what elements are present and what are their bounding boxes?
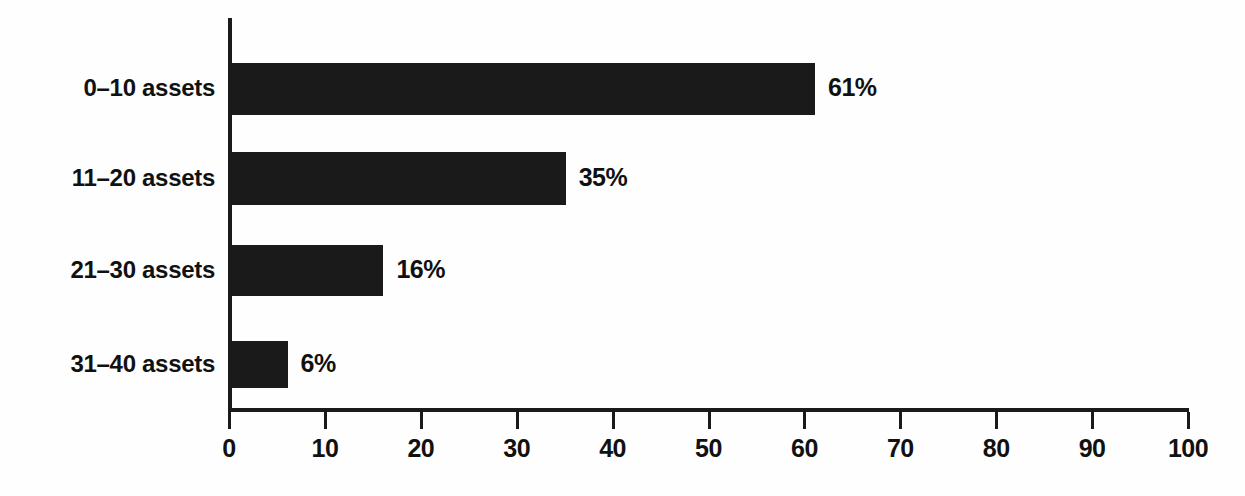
x-tick-mark [899,412,902,429]
x-tick-mark [1091,412,1094,429]
bar [230,63,815,115]
x-tick-mark [420,412,423,429]
x-tick-label: 70 [887,434,914,463]
bar-row: 0–10 assets61% [0,63,1245,115]
category-label: 31–40 assets [70,350,215,378]
x-tick-label: 80 [983,434,1010,463]
x-tick-mark [995,412,998,429]
x-tick-label: 0 [222,434,235,463]
bar-row: 11–20 assets35% [0,152,1245,205]
bar-value-label: 6% [301,349,336,378]
x-tick-label: 40 [599,434,626,463]
bar-row: 21–30 assets16% [0,245,1245,296]
category-label: 11–20 assets [72,164,215,192]
x-tick-mark [228,412,231,429]
bar-row: 31–40 assets6% [0,341,1245,388]
x-tick-mark [803,412,806,429]
x-tick-label: 10 [311,434,338,463]
bar [230,152,566,205]
x-tick-label: 90 [1079,434,1106,463]
category-label: 21–30 assets [70,256,215,284]
bar-value-label: 16% [396,255,445,284]
x-tick-label: 50 [695,434,722,463]
x-tick-mark [1187,412,1190,429]
x-tick-mark [612,412,615,429]
x-tick-label: 20 [407,434,434,463]
x-tick-label: 30 [503,434,530,463]
bar-value-label: 61% [828,73,877,102]
x-tick-mark [324,412,327,429]
bar-chart: 0102030405060708090100 0–10 assets61%11–… [0,0,1245,496]
bar-value-label: 35% [579,163,628,192]
x-tick-label: 100 [1168,434,1208,463]
x-tick-label: 60 [791,434,818,463]
bar [230,341,288,388]
category-label: 0–10 assets [84,74,216,102]
bar [230,245,383,296]
x-tick-mark [516,412,519,429]
x-tick-mark [708,412,711,429]
